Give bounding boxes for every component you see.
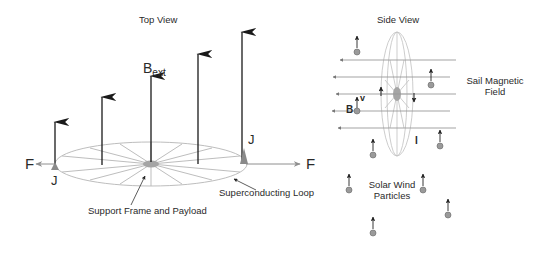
solar-wind-particles-label: Solar Wind Particles	[364, 179, 420, 201]
force-label-left: F	[25, 155, 34, 172]
solar-wind-line2: Particles	[364, 190, 420, 201]
side-view-title: Side View	[377, 14, 419, 25]
sail-field-line2: Field	[455, 86, 534, 97]
v-label: v	[360, 93, 365, 103]
top-view-title: Top View	[139, 14, 177, 25]
side-view	[332, 32, 456, 236]
sail-field-line1: Sail Magnetic	[455, 75, 534, 86]
bext-label: Bext	[143, 60, 166, 78]
solar-wind-particles	[346, 36, 451, 236]
b-label: B	[346, 104, 353, 115]
current-label-right: J	[248, 132, 255, 147]
top-view	[36, 32, 300, 205]
current-i-label: I	[415, 135, 418, 146]
diagram-canvas	[0, 0, 534, 254]
bext-field-arrows	[55, 32, 242, 165]
support-frame-label: Support Frame and Payload	[88, 205, 207, 216]
solar-wind-line1: Solar Wind	[364, 179, 420, 190]
support-pointer-arrow	[131, 176, 145, 205]
bext-label-main: B	[143, 60, 152, 76]
current-label-left: J	[51, 173, 58, 188]
superconducting-loop-label: Superconducting Loop	[219, 187, 314, 198]
bext-label-sub: ext	[152, 67, 165, 78]
sail-magnetic-field-label: Sail Magnetic Field	[455, 75, 534, 97]
current-marker-left	[51, 162, 59, 170]
sail-field-lines	[332, 60, 456, 128]
force-label-right: F	[306, 155, 315, 172]
